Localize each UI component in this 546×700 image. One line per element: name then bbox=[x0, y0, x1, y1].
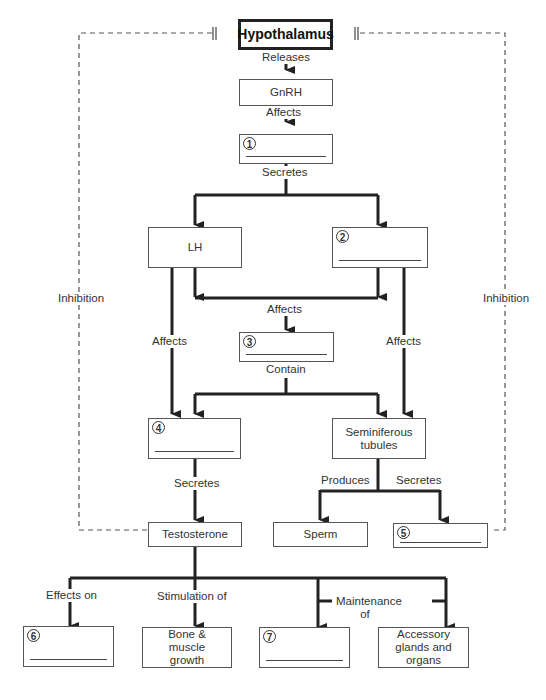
accessory-glands-node: Accessory glands and organs bbox=[378, 627, 469, 668]
number-badge-7: 7 bbox=[263, 630, 276, 643]
blank-7-node[interactable]: 7 bbox=[259, 627, 350, 668]
answer-line-5[interactable] bbox=[400, 542, 481, 543]
produces-label: Produces bbox=[321, 474, 370, 487]
blank-3-node[interactable]: 3 bbox=[239, 332, 334, 362]
inhibition-left-label: Inhibition bbox=[58, 292, 104, 305]
hypothalamus-node: Hypothalamus bbox=[238, 19, 333, 50]
sperm-label: Sperm bbox=[304, 528, 338, 541]
blank-1-node[interactable]: 1 bbox=[239, 134, 333, 164]
blank-6-node[interactable]: 6 bbox=[23, 626, 114, 667]
gnrh-node: GnRH bbox=[239, 79, 333, 106]
affects-right-label: Affects bbox=[386, 335, 421, 348]
seminiferous-tubules-node: Seminiferous tubules bbox=[332, 418, 426, 459]
answer-line-2[interactable] bbox=[339, 260, 421, 261]
accessory-glands-label: Accessory glands and organs bbox=[383, 628, 465, 667]
blank-5-node[interactable]: 5 bbox=[393, 523, 488, 548]
number-badge-6: 6 bbox=[27, 629, 40, 642]
testosterone-node: Testosterone bbox=[148, 522, 242, 547]
affects-3-label: Affects bbox=[267, 303, 302, 316]
seminiferous-tubules-label: Seminiferous tubules bbox=[344, 426, 414, 452]
answer-line-1[interactable] bbox=[246, 156, 326, 157]
secretes-1-label: Secretes bbox=[262, 166, 307, 179]
bone-muscle-growth-label: Bone & muscle growth bbox=[152, 628, 222, 667]
affects-gnrh-label: Affects bbox=[266, 106, 301, 119]
stimulation-of-label: Stimulation of bbox=[157, 590, 227, 603]
answer-line-3[interactable] bbox=[246, 354, 327, 355]
secretes-4-label: Secretes bbox=[174, 477, 219, 490]
hypothalamus-label: Hypothalamus bbox=[237, 28, 333, 41]
releases-label: Releases bbox=[262, 51, 310, 64]
blank-2-node[interactable]: 2 bbox=[332, 227, 428, 268]
blank-4-node[interactable]: 4 bbox=[148, 418, 241, 459]
answer-line-6[interactable] bbox=[30, 659, 107, 660]
gnrh-label: GnRH bbox=[270, 86, 302, 99]
number-badge-1: 1 bbox=[243, 137, 256, 150]
answer-line-4[interactable] bbox=[155, 451, 234, 452]
number-badge-2: 2 bbox=[336, 230, 349, 243]
number-badge-4: 4 bbox=[152, 421, 165, 434]
lh-label: LH bbox=[188, 241, 203, 254]
affects-left-label: Affects bbox=[152, 335, 187, 348]
sperm-node: Sperm bbox=[273, 522, 368, 547]
contain-label: Contain bbox=[266, 363, 306, 376]
hormone-regulation-diagram: Hypothalamus GnRH 1 LH 2 3 4 Seminiferou… bbox=[0, 0, 546, 700]
bone-muscle-growth-node: Bone & muscle growth bbox=[142, 627, 232, 668]
inhibition-right-label: Inhibition bbox=[483, 292, 529, 305]
lh-node: LH bbox=[148, 227, 242, 268]
maintenance-of-label: Maintenance of bbox=[336, 595, 394, 621]
number-badge-3: 3 bbox=[243, 335, 256, 348]
testosterone-label: Testosterone bbox=[162, 528, 228, 541]
effects-on-label: Effects on bbox=[46, 589, 97, 602]
answer-line-7[interactable] bbox=[266, 660, 343, 661]
number-badge-5: 5 bbox=[397, 526, 410, 539]
secretes-semi-label: Secretes bbox=[396, 474, 441, 487]
